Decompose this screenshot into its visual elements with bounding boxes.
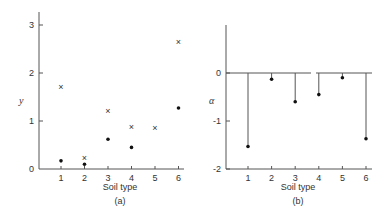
y-tick-label: 1 — [29, 116, 34, 126]
dot-marker — [177, 106, 181, 110]
x-tick-label: 5 — [152, 173, 157, 183]
cross-marker: × — [58, 82, 63, 92]
stem-marker — [341, 76, 345, 80]
cross-marker: × — [82, 153, 87, 163]
stem-marker — [270, 77, 274, 81]
dot-marker — [130, 146, 134, 150]
cross-marker: × — [152, 123, 157, 133]
y-tick-label: 3 — [29, 20, 34, 30]
y-tick-label: -1 — [213, 116, 221, 126]
cross-marker: × — [176, 37, 181, 47]
y-axis-label: α — [209, 95, 215, 106]
dot-marker — [59, 159, 63, 163]
chart-a: 0123123456ySoil type(a)×××××× — [18, 12, 184, 206]
y-tick-label: -2 — [213, 164, 221, 174]
stem-marker — [246, 145, 250, 149]
x-tick-label: 5 — [340, 173, 345, 183]
x-axis-label: Soil type — [281, 182, 316, 192]
y-tick-label: 0 — [216, 68, 221, 78]
figure: 0123123456ySoil type(a)×××××× 0-1-212345… — [0, 0, 384, 216]
x-tick-label: 1 — [58, 173, 63, 183]
x-tick-label: 2 — [82, 173, 87, 183]
dot-marker — [83, 162, 87, 166]
panel-label: (a) — [115, 196, 126, 206]
cross-marker: × — [129, 122, 134, 132]
x-tick-label: 2 — [269, 173, 274, 183]
stem-marker — [293, 100, 297, 104]
cross-marker: × — [105, 106, 110, 116]
x-tick-label: 4 — [316, 173, 321, 183]
dot-marker — [106, 137, 110, 141]
x-axis-label: Soil type — [103, 182, 138, 192]
x-tick-label: 1 — [245, 173, 250, 183]
chart-b: 0-1-2123456αSoil type(b) — [209, 25, 372, 206]
panel-label: (b) — [293, 196, 304, 206]
x-tick-label: 6 — [176, 173, 181, 183]
y-axis-label: y — [18, 95, 24, 106]
stem-marker — [364, 137, 368, 141]
stem-marker — [317, 93, 321, 97]
y-tick-label: 2 — [29, 68, 34, 78]
y-tick-label: 0 — [29, 164, 34, 174]
x-tick-label: 6 — [363, 173, 368, 183]
